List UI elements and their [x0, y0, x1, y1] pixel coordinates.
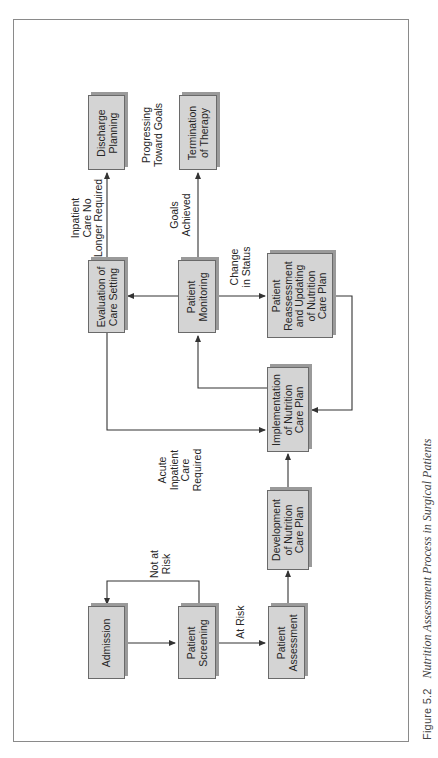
node-label: Evaluation of Care Setting — [95, 266, 118, 327]
label-progressing-toward-goals: Progressing Toward Goals — [141, 103, 164, 167]
label-goals-achieved: Goals Achieved — [169, 193, 192, 236]
node-patient-monitoring: Patient Monitoring — [178, 260, 216, 333]
figure-number: Figure 5.2 — [421, 688, 433, 740]
node-implementation-care-plan: Implementation of Nutrition Care Plan — [267, 367, 309, 452]
node-label: Admission — [101, 618, 113, 666]
node-patient-reassessment: Patient Reassessment and Updating of Nut… — [267, 253, 333, 338]
node-label: Patient Screening — [186, 619, 209, 666]
figure-title: Nutrition Assessment Process in Surgical… — [420, 439, 434, 679]
label-inpatient-no-longer-required: Inpatient Care No Longer Required — [70, 179, 105, 257]
node-evaluation-care-setting: Evaluation of Care Setting — [88, 260, 125, 333]
node-label: Development of Nutrition Care Plan — [271, 499, 306, 561]
node-label: Discharge Planning — [95, 109, 118, 156]
node-admission: Admission — [88, 606, 125, 679]
node-label: Patient Monitoring — [186, 272, 209, 321]
node-patient-assessment: Patient Assessment — [268, 606, 305, 679]
node-label: Patient Assessment — [275, 614, 298, 671]
connector-lines — [0, 0, 438, 758]
node-discharge-planning: Discharge Planning — [88, 95, 125, 170]
node-label: Patient Reassessment and Updating of Nut… — [271, 261, 329, 330]
label-not-at-risk: Not at Risk — [149, 550, 172, 578]
node-label: Implementation of Nutrition Care Plan — [271, 374, 306, 446]
label-acute-inpatient-care-required: Acute Inpatient Care Required — [157, 449, 203, 492]
node-development-care-plan: Development of Nutrition Care Plan — [267, 490, 309, 570]
figure-caption: Figure 5.2Nutrition Assessment Process i… — [420, 439, 435, 740]
node-label: Termination of Therapy — [187, 105, 210, 159]
label-at-risk: At Risk — [235, 605, 247, 638]
label-change-in-status: Change in Status — [229, 247, 252, 288]
node-termination-therapy: Termination of Therapy — [179, 95, 217, 170]
node-patient-screening: Patient Screening — [178, 606, 216, 679]
